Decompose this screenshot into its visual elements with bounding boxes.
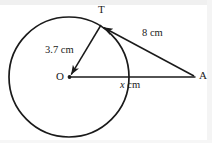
label-point-t: T <box>98 4 105 15</box>
label-unknown-measure: x cm <box>120 80 140 91</box>
segment-radius-OT <box>71 25 101 75</box>
point-O-dot <box>68 75 72 79</box>
geometry-figure: T O A 3.7 cm 8 cm x cm <box>0 0 212 143</box>
label-tangent-measure: 8 cm <box>142 28 163 39</box>
label-unknown-unit: cm <box>127 79 140 90</box>
label-point-o: O <box>56 71 64 82</box>
label-radius-measure: 3.7 cm <box>45 45 74 56</box>
label-point-a: A <box>199 70 207 81</box>
geometry-drawing <box>0 0 212 143</box>
